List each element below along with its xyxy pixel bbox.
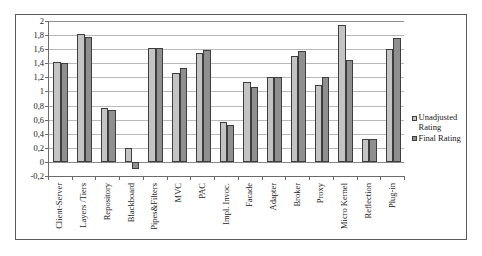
- bar: [298, 51, 305, 162]
- x-axis-labels: Client-ServerLayers /TiersRepositoryBlac…: [48, 183, 404, 241]
- bar: [338, 25, 345, 162]
- y-axis-tick-label: 0,2: [33, 144, 44, 153]
- x-axis-tick-label: Facade: [245, 183, 254, 207]
- x-axis-tick-mark: [214, 176, 215, 180]
- y-axis-tick-label: 1,4: [33, 59, 44, 68]
- bar: [132, 162, 139, 169]
- x-axis-tick-label: Repository: [103, 183, 112, 220]
- x-axis-tick-label: Reflection: [364, 183, 373, 218]
- bar: [243, 82, 250, 162]
- legend-swatch-icon-final: [412, 136, 417, 141]
- x-axis-tick-mark: [309, 176, 310, 180]
- x-axis-tick-mark: [95, 176, 96, 180]
- bar: [346, 60, 353, 162]
- bar: [172, 73, 179, 162]
- x-axis-tick-mark: [333, 176, 334, 180]
- x-axis-tick-label: Adapter: [269, 183, 278, 210]
- x-axis-line: [48, 176, 404, 177]
- chart-legend: UnadjustedRating Final Rating: [412, 113, 468, 144]
- legend-swatch-icon-unadjusted: [412, 116, 417, 121]
- y-axis-tick-label: 1,8: [33, 31, 44, 40]
- y-axis-tick-label: 2: [40, 17, 44, 26]
- legend-label-unadjusted: UnadjustedRating: [419, 113, 458, 133]
- x-axis-tick-mark: [285, 176, 286, 180]
- x-axis-tick-label: PAC: [198, 183, 207, 199]
- bar: [386, 49, 393, 162]
- x-axis-tick-label: Pipes&Filters: [150, 183, 159, 230]
- bar: [61, 63, 68, 162]
- x-axis-tick-mark: [48, 176, 49, 180]
- x-axis-tick-label: Blackboard: [127, 183, 136, 222]
- x-axis-tick-mark: [72, 176, 73, 180]
- bar: [291, 56, 298, 162]
- x-axis-tick-label: Proxy: [316, 183, 325, 203]
- bar: [156, 48, 163, 161]
- x-axis-tick-label: Broker: [293, 183, 302, 207]
- bar: [77, 34, 84, 162]
- x-axis-tick-label: Plug-in: [388, 183, 397, 208]
- bar: [125, 148, 132, 162]
- y-axis-tick-label: 0: [40, 158, 44, 167]
- bar: [393, 38, 400, 162]
- x-axis-tick-label: MVC: [174, 183, 183, 202]
- bar: [148, 48, 155, 161]
- bar: [369, 139, 376, 162]
- legend-item-unadjusted-rating: UnadjustedRating: [412, 113, 468, 133]
- bar: [53, 62, 60, 162]
- x-axis-tick-mark: [119, 176, 120, 180]
- bar: [203, 50, 210, 162]
- x-axis-tick-mark: [404, 176, 405, 180]
- x-axis-tick-mark: [380, 176, 381, 180]
- bars-layer: [49, 21, 404, 176]
- x-axis-tick-label: Micro Kernel: [340, 183, 349, 229]
- y-axis: 21,81,61,41,210,80,60,40,20-0,2: [16, 15, 48, 176]
- x-axis-tick-label: Impl. Invoc.: [222, 183, 231, 225]
- y-axis-tick-label: 1,6: [33, 45, 44, 54]
- bar: [196, 53, 203, 162]
- y-axis-tick-label: 0,6: [33, 115, 44, 124]
- y-axis-tick-label: 1,2: [33, 73, 44, 82]
- bar: [315, 85, 322, 162]
- bar: [227, 125, 234, 162]
- x-axis-tick-label: Layers /Tiers: [79, 183, 88, 228]
- x-axis-tick-mark: [143, 176, 144, 180]
- x-axis-tick-mark: [190, 176, 191, 180]
- legend-label-final: Final Rating: [419, 134, 461, 144]
- legend-item-final-rating: Final Rating: [412, 134, 468, 144]
- bar: [108, 110, 115, 161]
- x-axis-tick-mark: [262, 176, 263, 180]
- y-axis-tick-label: 0,8: [33, 101, 44, 110]
- x-axis-tick-mark: [238, 176, 239, 180]
- bar: [251, 87, 258, 162]
- x-axis-tick-mark: [167, 176, 168, 180]
- x-axis-tick-label: Client-Server: [55, 183, 64, 229]
- bar: [220, 122, 227, 162]
- bar: [322, 77, 329, 162]
- y-axis-tick-label: -0,2: [31, 172, 44, 181]
- bar: [180, 68, 187, 162]
- bar: [274, 77, 281, 162]
- bar: [85, 37, 92, 162]
- y-axis-tick-label: 1: [40, 87, 44, 96]
- chart-figure: 21,81,61,41,210,80,60,40,20-0,2 Client-S…: [15, 14, 467, 240]
- x-axis-tick-mark: [357, 176, 358, 180]
- bar: [101, 108, 108, 162]
- bar: [362, 139, 369, 162]
- bar: [267, 77, 274, 162]
- y-axis-tick-label: 0,4: [33, 129, 44, 138]
- plot-area: [48, 21, 404, 176]
